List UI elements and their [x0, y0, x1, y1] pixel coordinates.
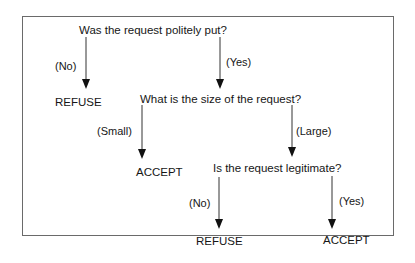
- edge-label-legitimate-no: (No): [189, 197, 210, 209]
- edge-label-size-large: (Large): [296, 125, 331, 137]
- outcome-refuse-2: REFUSE: [196, 235, 243, 247]
- question-polite: Was the request politely put?: [79, 24, 227, 36]
- question-legitimate: Is the request legitimate?: [213, 162, 342, 174]
- outcome-accept-1: ACCEPT: [136, 166, 183, 178]
- edge-label-legitimate-yes: (Yes): [339, 195, 364, 207]
- edge-label-size-small: (Small): [97, 125, 132, 137]
- arrows-layer: [0, 0, 415, 263]
- edge-label-polite-no: (No): [55, 60, 76, 72]
- question-size: What is the size of the request?: [140, 93, 301, 105]
- outcome-refuse-1: REFUSE: [55, 96, 102, 108]
- edge-label-polite-yes: (Yes): [226, 56, 251, 68]
- outcome-accept-2: ACCEPT: [323, 234, 370, 246]
